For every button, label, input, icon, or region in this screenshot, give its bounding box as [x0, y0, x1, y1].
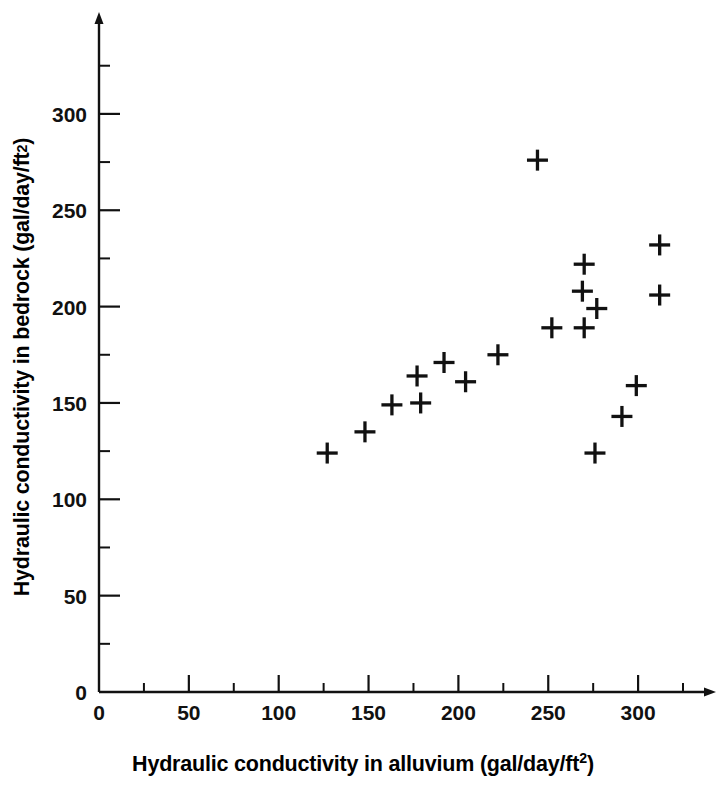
scatter-plot-figure: Hydraulic conductivity in bedrock (gal/d… [0, 0, 726, 797]
data-point [611, 406, 632, 427]
x-tick-label: 150 [351, 701, 386, 724]
data-point [626, 375, 647, 396]
data-point [572, 281, 593, 302]
data-point [434, 352, 455, 373]
y-tick-label: 150 [52, 392, 87, 415]
x-tick-label: 250 [531, 701, 566, 724]
x-axis-arrowhead [704, 688, 716, 697]
data-point [354, 421, 375, 442]
tick-marks-layer [99, 66, 683, 692]
y-tick-label: 100 [52, 488, 87, 511]
data-point [586, 298, 607, 319]
y-tick-label: 50 [64, 585, 87, 608]
tick-labels-layer: 050100150200250300050100150200250300 [52, 103, 656, 724]
plot-area: 050100150200250300050100150200250300 [0, 0, 726, 797]
data-point [410, 392, 431, 413]
y-axis-arrowhead [95, 12, 104, 24]
x-tick-label: 300 [621, 701, 656, 724]
data-point [649, 285, 670, 306]
y-tick-label: 300 [52, 103, 87, 126]
data-point [541, 317, 562, 338]
x-tick-label: 200 [441, 701, 476, 724]
x-tick-label: 100 [261, 701, 296, 724]
y-tick-label: 200 [52, 296, 87, 319]
data-point [574, 317, 595, 338]
data-point [407, 365, 428, 386]
data-point [649, 234, 670, 255]
data-point [317, 443, 338, 464]
data-point [574, 254, 595, 275]
x-tick-label: 0 [93, 701, 105, 724]
data-point [487, 344, 508, 365]
data-point [381, 394, 402, 415]
data-point [527, 150, 548, 171]
y-tick-label: 0 [75, 681, 87, 704]
data-point [455, 371, 476, 392]
y-tick-label: 250 [52, 199, 87, 222]
data-point [584, 443, 605, 464]
data-points-layer [317, 150, 670, 464]
axis-layer [95, 12, 717, 697]
x-tick-label: 50 [177, 701, 200, 724]
